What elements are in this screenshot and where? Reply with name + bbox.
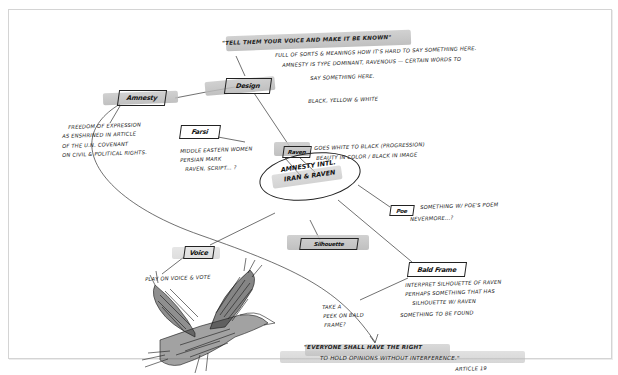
farsi-note-2: Persian mark bbox=[180, 156, 222, 165]
side-note-1: Take a bbox=[322, 303, 342, 311]
raven-illustration bbox=[140, 255, 290, 375]
bottom-quote-attribution: Article 19 bbox=[455, 365, 487, 374]
node-poe: Poe bbox=[389, 205, 415, 216]
node-silhouette: Silhouette bbox=[299, 238, 359, 250]
node-amnesty: Amnesty bbox=[117, 90, 167, 106]
node-farsi: Farsi bbox=[179, 125, 221, 139]
bottom-quote-line-1: "Everyone shall have the right bbox=[304, 344, 422, 352]
poe-note-2: nevermore...? bbox=[410, 214, 454, 223]
node-design: Design bbox=[224, 78, 272, 94]
side-note-3: frame? bbox=[324, 321, 346, 329]
bottom-quote-line-2: to hold opinions without interference." bbox=[320, 355, 460, 363]
node-bald-frame: Bald Frame bbox=[407, 262, 467, 277]
side-note-2: peek on bald bbox=[323, 312, 364, 321]
